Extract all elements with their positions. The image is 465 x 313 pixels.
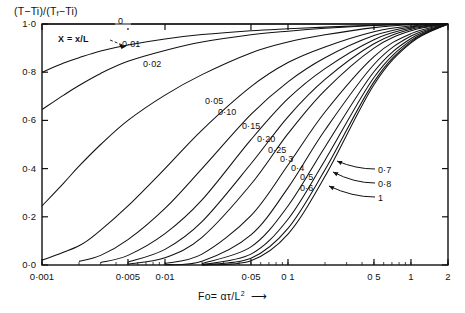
curve-label: 1 (378, 194, 383, 203)
curve-0.25 (128, 24, 448, 262)
curve-1 (202, 24, 448, 265)
curve-label: 0·01 (122, 40, 140, 49)
y-tick-label: 0·0 (2, 260, 36, 270)
curve-label: 0·20 (257, 135, 275, 144)
curve-label: 0·8 (378, 180, 391, 189)
curve-label: 0·10 (218, 108, 236, 117)
y-tick-label: 0·4 (2, 164, 36, 174)
curve-0.7 (202, 24, 448, 265)
leader-lines (329, 161, 375, 197)
curve-0.8 (202, 24, 448, 265)
x-definition-annotation: X = x/L (58, 35, 89, 44)
y-tick-label: 1·0 (2, 19, 36, 29)
x-tick-label: 2 (426, 272, 465, 282)
curve-0.4 (165, 24, 448, 264)
curve-label: 0·7 (378, 166, 391, 175)
curve-label: 0·5 (300, 173, 313, 182)
y-tick-label: 0·6 (2, 115, 36, 125)
y-tick-label: 0·8 (2, 67, 36, 77)
curve-group (42, 24, 448, 265)
figure-root: (T−Ti)/(Tf−Ti) Fo= ατ/L2 ⟶ X = x/L 1·00·… (0, 0, 465, 313)
curve-label: 0 (118, 17, 123, 26)
chart-canvas (0, 0, 465, 313)
curve-label: 0·6 (300, 184, 313, 193)
curve-label: 0·05 (205, 97, 223, 106)
x-tick-label: 0 1 (266, 272, 310, 282)
curve-label: 0·15 (242, 122, 260, 131)
y-tick-label: 0·2 (2, 212, 36, 222)
x-tick-label: 0·001 (20, 272, 64, 282)
curve-label: 0·02 (143, 60, 161, 69)
curve-0.5 (165, 24, 448, 265)
x-tick-label: 0·01 (143, 272, 187, 282)
